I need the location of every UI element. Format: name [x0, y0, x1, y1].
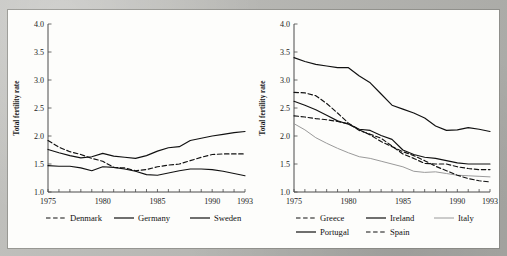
chart-southern-europe-svg: 1.01.52.02.53.03.54.01975198019851990199…: [254, 10, 499, 248]
x-tick-label: 1993: [482, 197, 498, 206]
y-tick-label: 3.0: [34, 76, 44, 85]
y-axis-title: Total fertility rate: [259, 81, 267, 136]
y-tick-label: 2.5: [280, 104, 290, 113]
y-tick-label: 1.0: [34, 188, 44, 197]
y-tick-label: 3.5: [34, 48, 44, 57]
x-tick-label: 1985: [149, 197, 165, 206]
chart-northern-europe: 1.01.52.02.53.03.54.01975198019851990199…: [8, 10, 254, 248]
x-tick-label: 1975: [40, 197, 56, 206]
x-tick-label: 1990: [449, 197, 465, 206]
y-tick-label: 4.0: [280, 20, 290, 29]
chart-northern-europe-svg: 1.01.52.02.53.03.54.01975198019851990199…: [8, 10, 254, 248]
y-tick-label: 1.5: [280, 160, 290, 169]
y-tick-label: 3.0: [280, 76, 290, 85]
y-tick-label: 3.5: [280, 48, 290, 57]
series-line-ireland: [294, 58, 490, 132]
x-tick-label: 1980: [340, 197, 356, 206]
x-tick-label: 1985: [395, 197, 411, 206]
y-tick-label: 2.5: [34, 104, 44, 113]
legend-label-portugal: Portugal: [320, 227, 350, 237]
x-tick-label: 1975: [286, 197, 302, 206]
x-tick-label: 1980: [95, 197, 111, 206]
y-axis-title: Total fertility rate: [13, 81, 21, 136]
series-line-sweden: [48, 132, 245, 159]
series-line-germany: [48, 166, 245, 176]
y-tick-label: 1.0: [280, 188, 290, 197]
legend-label-italy: Italy: [458, 213, 474, 223]
y-tick-label: 4.0: [34, 20, 44, 29]
chart-southern-europe: 1.01.52.02.53.03.54.01975198019851990199…: [254, 10, 499, 248]
legend-label-sweden: Sweden: [214, 213, 242, 223]
series-line-portugal: [294, 101, 490, 164]
figure-page: 1.01.52.02.53.03.54.01975198019851990199…: [0, 0, 507, 256]
series-line-greece: [294, 116, 490, 170]
legend-label-ireland: Ireland: [390, 213, 415, 223]
y-tick-label: 1.5: [34, 160, 44, 169]
y-tick-label: 2.0: [280, 132, 290, 141]
legend-label-denmark: Denmark: [70, 213, 103, 223]
x-tick-label: 1990: [204, 197, 220, 206]
legend-label-germany: Germany: [138, 213, 171, 223]
figure-panel: 1.01.52.02.53.03.54.01975198019851990199…: [8, 10, 499, 248]
legend-label-spain: Spain: [390, 227, 410, 237]
x-tick-label: 1993: [237, 197, 253, 206]
y-tick-label: 2.0: [34, 132, 44, 141]
series-line-italy: [294, 124, 490, 177]
legend-label-greece: Greece: [320, 213, 345, 223]
